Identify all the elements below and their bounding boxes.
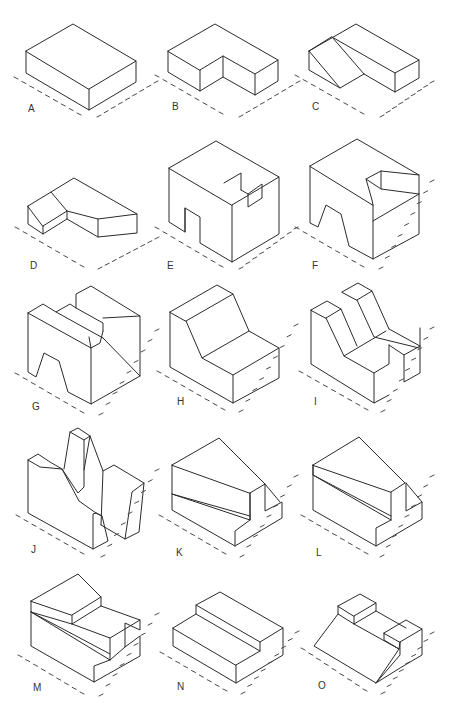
grid-tick-left — [363, 689, 367, 691]
solid-edge — [326, 318, 386, 356]
figure-f: F — [295, 139, 434, 271]
grid-tick-right — [247, 545, 251, 547]
grid-tick-left — [41, 669, 45, 671]
grid-tick-left — [187, 94, 191, 96]
grid-tick-left — [39, 241, 43, 243]
solid-edge — [173, 592, 283, 665]
solid-edge — [28, 460, 108, 549]
grid-tick-left — [31, 237, 35, 239]
solid-edge — [91, 338, 140, 404]
grid-tick-left — [23, 378, 27, 380]
grid-tick-left — [72, 687, 76, 689]
grid-tick-right — [255, 677, 259, 679]
grid-tick-left — [348, 543, 352, 545]
solid-edge — [309, 24, 419, 73]
solid-edge — [311, 310, 374, 403]
grid-tick-left — [168, 657, 172, 659]
grid-tick-left — [328, 246, 332, 248]
solid-edge — [186, 294, 249, 358]
grid-tick-left — [205, 399, 209, 401]
grid-tick-right — [273, 356, 277, 358]
figure-g: G — [15, 286, 159, 415]
grid-tick-right — [275, 94, 279, 96]
solid-edge — [224, 173, 241, 190]
figure-label: A — [28, 103, 35, 114]
grid-tick-left — [340, 674, 344, 676]
solid-edge — [310, 139, 419, 205]
grid-tick-left — [309, 653, 313, 655]
solid-edge — [31, 612, 110, 654]
grid-tick-left — [56, 251, 60, 253]
solid-edge — [196, 614, 260, 651]
grid-tick-left — [332, 390, 336, 392]
grid-tick-right — [393, 389, 397, 391]
grid-tick-left — [22, 82, 26, 84]
solid-edge — [404, 346, 420, 382]
grid-tick-left — [214, 547, 218, 549]
grid-tick-right — [398, 234, 402, 236]
figure-j: J — [16, 428, 159, 557]
grid-tick-right — [380, 555, 384, 557]
figure-a: A — [14, 24, 158, 117]
grid-tick-right — [98, 267, 102, 269]
grid-tick-left — [179, 241, 183, 243]
grid-tick-right — [399, 102, 403, 104]
grid-tick-left — [30, 86, 34, 88]
grid-tick-right — [127, 654, 131, 656]
grid-tick-right — [135, 501, 139, 503]
grid-tick-left — [199, 675, 203, 677]
grid-tick-right — [248, 684, 252, 686]
grid-tick-left — [197, 394, 201, 396]
solid-edge — [170, 285, 233, 321]
grid-tick-right — [280, 237, 284, 239]
grid-tick-left — [360, 112, 364, 114]
solid-edge — [384, 620, 422, 642]
solid-edge — [196, 605, 260, 642]
solid-edge — [31, 574, 101, 615]
grid-tick-right — [127, 252, 131, 254]
grid-tick-right — [134, 361, 138, 363]
grid-tick-right — [147, 85, 151, 87]
figure-label: E — [167, 260, 174, 271]
grid-tick-right — [261, 669, 265, 671]
grid-tick-right — [105, 263, 109, 265]
figure-label: N — [177, 681, 184, 692]
grid-tick-right — [430, 180, 434, 182]
grid-tick-left — [222, 552, 226, 554]
grid-tick-left — [49, 674, 53, 676]
grid-tick-left — [317, 524, 321, 526]
solid-edge — [372, 291, 389, 329]
grid-tick-left — [72, 260, 76, 262]
figure-label: M — [33, 682, 41, 693]
grid-tick-left — [319, 89, 323, 91]
grid-tick-left — [16, 515, 20, 517]
grid-tick-left — [198, 538, 202, 540]
grid-tick-left — [64, 543, 68, 545]
grid-tick-right — [424, 337, 428, 339]
grid-tick-right — [275, 654, 279, 656]
grid-tick-left — [39, 387, 43, 389]
grid-tick-right — [405, 515, 409, 517]
solid-edge — [241, 184, 262, 207]
grid-tick-left — [80, 692, 84, 694]
grid-tick-left — [295, 75, 299, 77]
figure-label: G — [32, 401, 40, 412]
grid-tick-left — [219, 265, 223, 267]
grid-tick-left — [303, 232, 307, 234]
grid-tick-right — [241, 692, 245, 694]
grid-tick-left — [80, 552, 84, 554]
figure-label: H — [177, 396, 184, 407]
grid-tick-right — [99, 694, 103, 696]
figure-label: K — [176, 547, 183, 558]
grid-tick-left — [80, 411, 84, 413]
solid-edge — [172, 494, 250, 516]
grid-tick-right — [127, 371, 131, 373]
grid-tick-left — [340, 394, 344, 396]
grid-tick-right — [287, 335, 291, 337]
figure-h: H — [157, 285, 298, 412]
grid-tick-right — [112, 260, 116, 262]
grid-tick-right — [118, 102, 122, 104]
grid-tick-left — [203, 256, 207, 258]
grid-tick-left — [18, 655, 22, 657]
grid-tick-right — [393, 677, 397, 679]
